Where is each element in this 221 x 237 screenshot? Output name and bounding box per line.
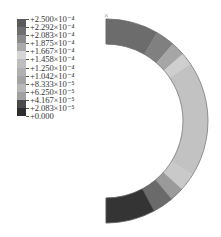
contour-band xyxy=(170,64,208,175)
node-marker-icon: × xyxy=(104,11,109,20)
contour-plot: × xyxy=(0,0,221,237)
